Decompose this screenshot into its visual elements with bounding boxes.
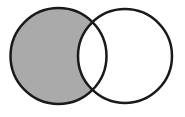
venn-diagram [0,0,185,117]
